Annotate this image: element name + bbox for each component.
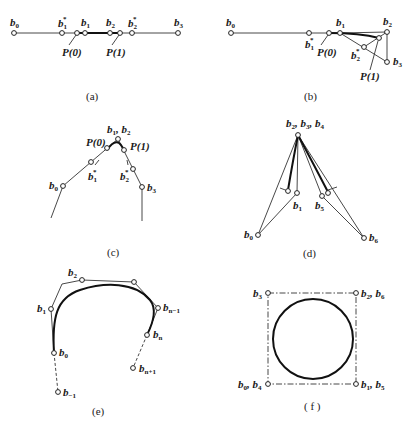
polygon-right-outer: [298, 135, 364, 238]
circle-curve: [273, 299, 353, 379]
point-b3: [385, 60, 390, 65]
label-b2: b2: [68, 266, 78, 280]
point-b2-star: [362, 45, 367, 50]
panel-f: b3 b2, b6 b0, b4 b1, b5 ( f ): [238, 287, 385, 413]
point-b2: [80, 278, 85, 283]
point-b0: [256, 233, 261, 238]
caption-a: (a): [86, 90, 99, 103]
label-p1: P(1): [360, 70, 380, 83]
curve-left: [288, 135, 298, 190]
point-b1-star: [60, 31, 65, 36]
label-b0-b4: b0, b4: [238, 378, 262, 392]
panel-a: b0 b1* b1 b2 b2* b3 P(0) P(1) (a): [10, 15, 184, 103]
point-b1-b2: [116, 137, 121, 142]
label-bn-1: bn−1: [163, 301, 180, 315]
caption-e: (e): [92, 405, 105, 418]
control-square: [268, 293, 356, 384]
label-b2: b2: [106, 16, 116, 30]
point-bn-1: [156, 306, 161, 311]
point-right-inner: [326, 191, 331, 196]
panel-c: b1, b2 P(0) P(1) b0 b1* b2* b3 (c): [49, 123, 157, 259]
polygon-left-outer: [258, 135, 298, 235]
point-b3: [176, 31, 181, 36]
point-p1: [118, 31, 123, 36]
curve: [54, 285, 154, 353]
label-bn+1: bn+1: [139, 362, 156, 376]
label-b0: b0: [244, 228, 254, 242]
point-b2: [108, 31, 113, 36]
tick-b2-star: [127, 160, 128, 165]
label-b1: b1: [336, 16, 346, 30]
label-p0: P(0): [86, 136, 106, 149]
point-p0: [75, 31, 80, 36]
label-bn: bn: [153, 328, 163, 342]
point-b0-b4: [266, 382, 271, 387]
point-b0: [61, 184, 66, 189]
point-b3: [266, 291, 271, 296]
label-b1-b5: b1, b5: [361, 378, 385, 392]
tick-b1-star: [95, 160, 99, 165]
label-b2-star: b2*: [120, 168, 130, 184]
label-p1: P(1): [106, 46, 126, 59]
point-bn: [145, 333, 150, 338]
leader-p0: [321, 35, 328, 45]
point-b2-star: [131, 167, 136, 172]
label-b1-star: b1*: [88, 168, 98, 184]
label-b2-star: b2*: [128, 15, 138, 31]
extension-b-1: [54, 353, 58, 392]
point-b1: [295, 191, 300, 196]
caption-f: ( f ): [304, 400, 321, 413]
leader-p0: [69, 35, 76, 45]
point-p1: [122, 148, 127, 153]
segment-b0-b1: [258, 193, 297, 235]
point-bn+1: [131, 366, 136, 371]
leader-p1: [112, 35, 119, 45]
label-b3: b3: [174, 16, 184, 30]
point-b0: [52, 351, 57, 356]
point-p0: [327, 31, 332, 36]
label-b3: b3: [147, 181, 157, 195]
point-left-inner: [286, 189, 291, 194]
panel-b: b0 b1* b1 b2 b2* b3 P(0) P(1) (b): [226, 15, 403, 103]
label-b3: b3: [393, 55, 403, 69]
curve-right: [298, 135, 328, 192]
panel-e: b2 b1 b0 b−1 bn−1 bn bn+1 (e): [37, 266, 180, 418]
point-b5: [320, 194, 325, 199]
point-b2-b3-b4: [296, 133, 301, 138]
label-b2-star: b2*: [351, 47, 361, 63]
point-b-1: [56, 390, 61, 395]
label-b0: b0: [59, 346, 69, 360]
label-p1: P(1): [130, 140, 150, 153]
label-b0: b0: [10, 16, 20, 30]
segment-b2star-b2: [364, 32, 387, 47]
label-b6: b6: [369, 231, 379, 245]
curve-segment: [329, 33, 379, 38]
label-p0: P(0): [62, 46, 82, 59]
point-b0: [12, 31, 17, 36]
caption-c: (c): [107, 246, 120, 259]
label-b1: b1: [293, 199, 303, 213]
panel-d: b2, b3, b4 b1 b5 b0 b6 (d): [244, 117, 379, 260]
label-b1-b2: b1, b2: [107, 123, 131, 137]
point-b1-b5: [354, 382, 359, 387]
point-b1: [83, 31, 88, 36]
point-b2-b6: [354, 291, 359, 296]
point-b1: [49, 307, 54, 312]
label-b0: b0: [49, 179, 59, 193]
label-b-1: b−1: [63, 386, 76, 400]
label-p0: P(0): [317, 46, 337, 59]
label-b2-b6: b2, b6: [361, 287, 385, 301]
label-b1: b1: [37, 302, 47, 316]
point-b3: [140, 185, 145, 190]
point-b2: [385, 30, 390, 35]
label-b2: b2: [383, 15, 393, 29]
label-b1: b1: [81, 16, 91, 30]
label-b2-b3-b4: b2, b3, b4: [286, 117, 325, 131]
point-b1-star: [89, 160, 94, 165]
point-b1: [338, 31, 343, 36]
point-b2-star: [130, 31, 135, 36]
caption-b: (b): [304, 90, 317, 103]
point-b6: [362, 236, 367, 241]
bspline-figure: b0 b1* b1 b2 b2* b3 P(0) P(1) (a) b0 b1*…: [0, 0, 414, 423]
control-polygon: [51, 280, 158, 353]
